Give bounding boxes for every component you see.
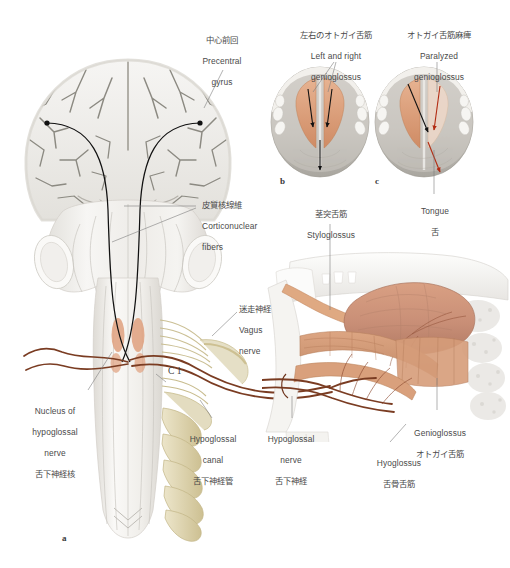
label-precentral-gyrus-ja: 中心前回 [186, 35, 258, 45]
label-paralyzed-genioglossus-en1: Paralyzed [392, 51, 486, 61]
label-nucleus-en3: nerve [22, 448, 88, 458]
label-styloglossus: 茎突舌筋 Styloglossus [296, 199, 366, 251]
label-left-right-genioglossus-ja: 左右のオトガイ舌筋 [288, 30, 384, 40]
label-tongue: Tongue 舌 [407, 196, 463, 248]
label-hypoglossal-canal-en2: canal [180, 455, 246, 465]
label-nucleus-of-hypoglossal-nerve: Nucleus of hypoglossal nerve 舌下神経核 [22, 396, 88, 490]
label-hypoglossal-nerve-en2: nerve [258, 455, 324, 465]
label-paralyzed-genioglossus-ja: オトガイ舌筋麻痺 [392, 30, 486, 40]
label-vagus-nerve: 迷走神経 Vagus nerve [239, 294, 295, 367]
label-paralyzed-genioglossus: オトガイ舌筋麻痺 Paralyzed genioglossus [392, 20, 486, 93]
panel-letter-a: a [62, 533, 67, 543]
label-styloglossus-en1: Styloglossus [296, 230, 366, 240]
label-hypoglossal-canal-en1: Hypoglossal [180, 434, 246, 444]
label-hypoglossal-nerve-en1: Hypoglossal [258, 434, 324, 444]
label-hypoglossal-canal: Hypoglossal canal 舌下神経管 [180, 424, 246, 497]
label-tongue-ja: 舌 [407, 227, 463, 237]
label-hyoglossus: Hyoglossus 舌骨舌筋 [368, 448, 430, 500]
label-nucleus-en2: hypoglossal [22, 427, 88, 437]
label-genioglossus-en1: Genioglossus [404, 428, 476, 438]
label-precentral-gyrus: 中心前回 Precentral gyrus [186, 25, 258, 98]
label-left-right-genioglossus: 左右のオトガイ舌筋 Left and right genioglossus [288, 20, 384, 93]
label-vagus-nerve-en1: Vagus [239, 325, 295, 335]
label-corticonuclear-fibers-en2: fibers [202, 242, 280, 252]
label-hypoglossal-nerve: Hypoglossal nerve 舌下神経 [258, 424, 324, 497]
label-hypoglossal-nerve-ja: 舌下神経 [258, 476, 324, 486]
label-nucleus-ja: 舌下神経核 [22, 469, 88, 479]
label-styloglossus-ja: 茎突舌筋 [296, 209, 366, 219]
label-c1-spinal-nerve: C 1 [168, 366, 181, 376]
label-paralyzed-genioglossus-en2: genioglossus [392, 72, 486, 82]
panel-letter-b: b [280, 176, 285, 186]
label-hyoglossus-ja: 舌骨舌筋 [368, 479, 430, 489]
label-nucleus-en1: Nucleus of [22, 406, 88, 416]
label-hyoglossus-en1: Hyoglossus [368, 458, 430, 468]
panel-letter-c: c [375, 176, 379, 186]
label-corticonuclear-fibers-ja: 皮質核線維 [202, 200, 280, 210]
label-corticonuclear-fibers: 皮質核線維 Corticonuclear fibers [202, 190, 280, 263]
label-vagus-nerve-en2: nerve [239, 346, 295, 356]
label-tongue-en1: Tongue [407, 206, 463, 216]
label-vagus-nerve-ja: 迷走神経 [239, 304, 295, 314]
label-left-right-genioglossus-en1: Left and right [288, 51, 384, 61]
hypoglossal-nucleus-right [132, 318, 145, 352]
label-left-right-genioglossus-en2: genioglossus [288, 72, 384, 82]
label-hypoglossal-canal-ja: 舌下神経管 [180, 476, 246, 486]
label-corticonuclear-fibers-en1: Corticonuclear [202, 221, 280, 231]
label-precentral-gyrus-en2: gyrus [186, 77, 258, 87]
label-precentral-gyrus-en1: Precentral [186, 56, 258, 66]
hyoglossus-muscle [396, 337, 468, 386]
anatomy-figure: 中心前回 Precentral gyrus 左右のオトガイ舌筋 Left and… [0, 0, 510, 568]
